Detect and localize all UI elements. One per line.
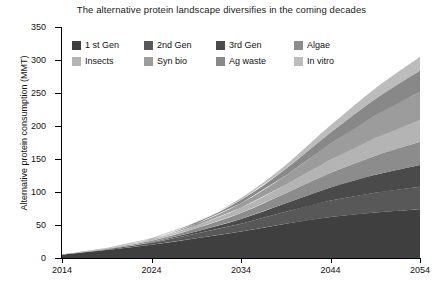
legend-swatch-icon (294, 57, 303, 66)
y-tick-mark (55, 93, 61, 94)
legend-item-ag-waste[interactable]: Ag waste (216, 56, 294, 66)
x-tick-label: 2014 (37, 265, 87, 275)
x-tick-label: 2044 (306, 265, 356, 275)
legend-item-in-vitro[interactable]: In vitro (294, 56, 334, 66)
legend-label: Insects (85, 56, 114, 66)
legend-item-3rd-gen[interactable]: 3rd Gen (216, 40, 294, 50)
legend-label: 3rd Gen (229, 40, 262, 50)
y-tick-mark (55, 258, 61, 259)
legend-swatch-icon (216, 41, 225, 50)
y-tick-mark (55, 225, 61, 226)
y-tick-label: 0 (0, 253, 46, 263)
x-tick-label: 2024 (127, 265, 177, 275)
legend-item-syn-bio[interactable]: Syn bio (144, 56, 216, 66)
legend-item-2nd-gen[interactable]: 2nd Gen (144, 40, 216, 50)
area-series-group (62, 57, 420, 258)
legend-swatch-icon (144, 57, 153, 66)
y-tick-label: 100 (0, 187, 46, 197)
chart-legend: 1 st Gen 2nd Gen 3rd Gen Algae Insects (72, 37, 342, 69)
legend-row: Insects Syn bio Ag waste In vitro (72, 53, 342, 69)
legend-swatch-icon (144, 41, 153, 50)
y-tick-label: 200 (0, 121, 46, 131)
y-tick-mark (55, 27, 61, 28)
x-tick-label: 2054 (395, 265, 443, 275)
x-tick-mark (62, 258, 63, 263)
y-tick-mark (55, 192, 61, 193)
x-tick-mark (331, 258, 332, 263)
y-tick-mark (55, 159, 61, 160)
chart-title: The alternative protein landscape divers… (0, 4, 443, 15)
legend-swatch-icon (72, 57, 81, 66)
y-tick-label: 300 (0, 55, 46, 65)
y-axis-title: Alternative protein consumption (MMT) (19, 38, 29, 228)
x-tick-label: 2034 (216, 265, 266, 275)
legend-label: 2nd Gen (157, 40, 192, 50)
legend-swatch-icon (216, 57, 225, 66)
y-tick-label: 150 (0, 154, 46, 164)
legend-item-algae[interactable]: Algae (294, 40, 330, 50)
legend-label: 1 st Gen (85, 40, 119, 50)
legend-label: Syn bio (157, 56, 187, 66)
y-axis-line (61, 27, 62, 259)
legend-label: Algae (307, 40, 330, 50)
legend-row: 1 st Gen 2nd Gen 3rd Gen Algae (72, 37, 342, 53)
y-tick-label: 250 (0, 88, 46, 98)
x-tick-mark (241, 258, 242, 263)
legend-swatch-icon (294, 41, 303, 50)
legend-swatch-icon (72, 41, 81, 50)
y-tick-label: 50 (0, 220, 46, 230)
legend-item-insects[interactable]: Insects (72, 56, 144, 66)
legend-item-1-st-gen[interactable]: 1 st Gen (72, 40, 144, 50)
y-tick-mark (55, 126, 61, 127)
legend-label: Ag waste (229, 56, 266, 66)
chart-figure: The alternative protein landscape divers… (0, 0, 443, 294)
y-tick-label: 350 (0, 22, 46, 32)
y-tick-mark (55, 60, 61, 61)
x-tick-mark (152, 258, 153, 263)
legend-label: In vitro (307, 56, 334, 66)
x-tick-mark (420, 258, 421, 263)
